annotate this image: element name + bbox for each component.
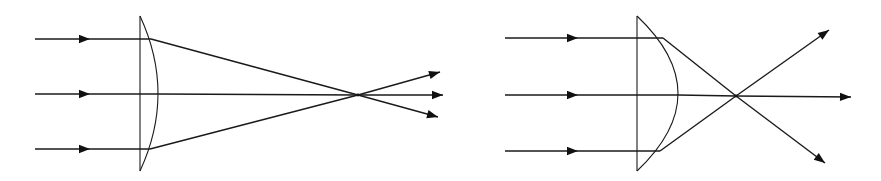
refracted-ray [663,38,825,163]
arrow-icon [814,153,825,163]
refracted-ray [158,94,443,95]
arrow-right-icon [567,34,578,42]
lens-curved-surface [637,16,678,171]
arrow-right-icon [567,91,578,99]
lens-ray-diagrams [0,0,881,181]
arrow-icon [432,91,443,99]
refracted-ray [660,30,829,151]
arrow-right-icon [567,147,578,155]
refracted-ray [151,39,438,117]
focal-point [357,94,360,97]
refracted-ray [678,95,851,97]
arrow-icon [840,93,851,101]
arrow-icon [818,30,829,40]
refracted-ray [150,72,440,149]
arrow-right-icon [79,90,90,98]
right-lens-diagram [505,16,851,171]
focal-point [735,95,738,98]
left-lens-diagram [35,16,443,171]
arrow-right-icon [79,145,90,153]
arrow-icon [428,71,440,79]
arrow-icon [426,110,438,118]
arrow-right-icon [79,35,90,43]
